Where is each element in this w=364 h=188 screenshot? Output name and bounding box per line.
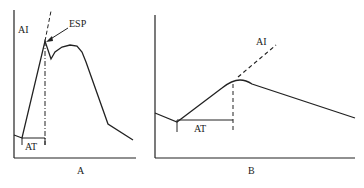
panel-a-at-label: AT [25,141,37,152]
panel-b-ai-dashed-line [238,45,276,77]
panel-a-ai-label: AI [18,24,29,35]
panel-a-esp-label: ESP [69,18,87,29]
panel-b: AI AT B [155,15,355,176]
panel-b-curve [155,80,355,122]
panel-a-curve [14,41,133,140]
diagram-canvas: AI ESP AT A AI AT B [0,0,364,188]
arrowhead-icon [46,36,53,42]
panel-b-caption: B [248,165,255,176]
panel-b-ai-label: AI [256,36,267,47]
panel-a-extrapolation-line [45,11,51,41]
panel-a-caption: A [77,165,85,176]
panel-a: AI ESP AT A [14,10,136,176]
panel-b-at-label: AT [194,123,206,134]
